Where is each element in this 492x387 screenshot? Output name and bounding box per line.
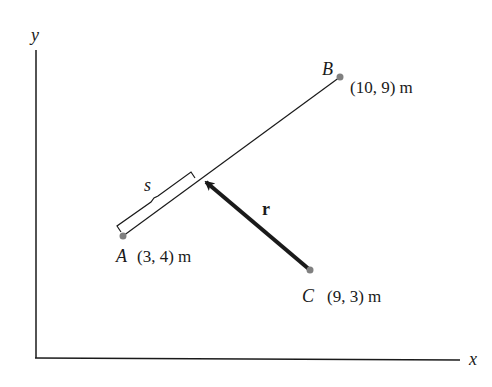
y-axis-label: y <box>29 25 39 45</box>
segment-label-s: s <box>144 175 151 195</box>
point-b-name: B <box>322 59 333 79</box>
point-b-coords: (10, 9) m <box>350 78 413 97</box>
line-ab <box>123 77 340 236</box>
segment-brace-s <box>117 172 195 232</box>
point-a <box>120 233 127 240</box>
point-c-name: C <box>302 286 315 306</box>
point-a-name: A <box>115 246 128 266</box>
x-axis-label: x <box>468 349 477 369</box>
point-a-coords: (3, 4) m <box>137 247 191 266</box>
point-b <box>337 74 344 81</box>
point-c-coords: (9, 3) m <box>327 287 381 306</box>
vector-label-r: r <box>262 199 270 219</box>
x-axis <box>35 358 460 360</box>
point-c <box>307 267 314 274</box>
vector-r <box>206 182 310 270</box>
vector-diagram: y x s r B (10, 9) m A (3, 4) m C (9, 3) … <box>0 0 492 387</box>
